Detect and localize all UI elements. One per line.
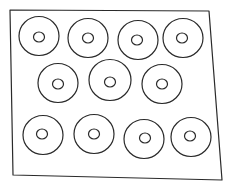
donut-hole — [53, 79, 64, 89]
donut-ring — [74, 115, 114, 154]
donut-outer-edge — [23, 116, 63, 155]
donut-hole — [185, 131, 196, 141]
donut-ring — [23, 116, 63, 155]
donut-outer-edge — [89, 60, 131, 101]
donut-outer-edge — [68, 19, 108, 58]
donut-outer-edge — [124, 120, 164, 159]
donut-ring — [68, 19, 108, 58]
donut-hole — [140, 133, 151, 143]
donut-ring — [118, 21, 158, 60]
donut-outer-edge — [118, 21, 158, 60]
donut-ring — [124, 120, 164, 159]
donut-outer-edge — [163, 19, 203, 58]
donut-outer-edge — [142, 65, 182, 104]
donut-ring — [89, 60, 131, 101]
donut-ring — [142, 65, 182, 104]
donut-ring — [38, 64, 78, 103]
donut-outer-edge — [38, 64, 78, 103]
donut-ring — [163, 19, 203, 58]
tray-drawing — [0, 0, 233, 187]
donut-outer-edge — [19, 17, 59, 56]
donut-hole — [89, 129, 100, 139]
donut-hole — [157, 79, 168, 89]
donut-hole — [34, 32, 45, 42]
donut-rings — [19, 17, 211, 159]
donut-hole — [83, 33, 94, 43]
donut-outer-edge — [74, 115, 114, 154]
donut-hole — [177, 33, 188, 43]
donut-hole — [105, 77, 116, 87]
donut-hole — [132, 35, 143, 45]
donut-ring — [171, 118, 211, 157]
donut-outer-edge — [171, 118, 211, 157]
donut-hole — [37, 129, 48, 139]
donut-ring — [19, 17, 59, 56]
